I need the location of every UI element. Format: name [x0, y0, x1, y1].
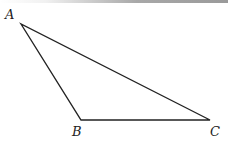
vertex-label-c: C	[210, 125, 220, 138]
vertex-label-b: B	[72, 125, 82, 138]
vertex-label-a: A	[5, 8, 14, 21]
triangle-abc	[21, 24, 210, 120]
triangle-diagram	[0, 0, 228, 141]
